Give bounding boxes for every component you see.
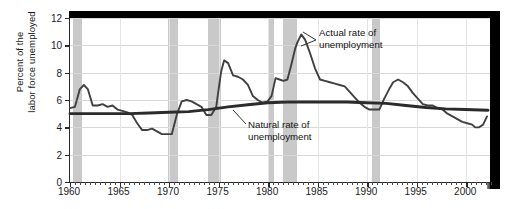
x-axis-minor-tick (451, 182, 452, 185)
x-axis-minor-tick (159, 182, 160, 185)
x-axis-minor-tick (129, 182, 130, 185)
frame-shadow-right (490, 11, 500, 189)
x-axis-minor-tick (273, 182, 274, 185)
x-axis-minor-tick (387, 182, 388, 185)
x-axis-minor-tick (407, 182, 408, 185)
x-axis-minor-tick (189, 182, 190, 185)
x-axis-minor-tick (209, 182, 210, 185)
x-axis-minor-tick (308, 182, 309, 185)
x-axis-minor-tick (313, 182, 314, 185)
x-axis-minor-tick (194, 182, 195, 185)
x-axis-minor-tick (357, 182, 358, 185)
x-axis-minor-tick (144, 182, 145, 185)
x-axis-minor-tick (392, 182, 393, 185)
natural-rate-annotation: Natural rate of unemployment (248, 119, 312, 142)
x-axis-minor-tick (80, 182, 81, 185)
x-axis-minor-tick (432, 182, 433, 185)
x-axis-minor-tick (323, 182, 324, 185)
y-axis-tick-label: 6 (56, 95, 62, 106)
x-axis-minor-tick (461, 182, 462, 185)
x-axis-minor-tick (352, 182, 353, 185)
x-axis-minor-tick (456, 182, 457, 185)
x-axis-minor-tick (214, 182, 215, 185)
x-axis-tick-label: 1990 (355, 186, 377, 197)
x-axis-minor-tick (164, 182, 165, 185)
actual-rate-annotation: Actual rate of unemployment (319, 27, 383, 50)
y-axis-tick-label: 4 (56, 122, 62, 133)
x-axis-minor-tick (258, 182, 259, 185)
x-axis-minor-tick (278, 182, 279, 185)
x-axis-minor-tick (253, 182, 254, 185)
y-axis-tick-label: 8 (56, 67, 62, 78)
x-axis-minor-tick (238, 182, 239, 185)
x-axis-minor-tick (446, 182, 447, 185)
x-axis-minor-tick (115, 182, 116, 185)
x-axis-minor-tick (402, 182, 403, 185)
x-axis-minor-tick (204, 182, 205, 185)
y-axis-tick-label: 12 (51, 13, 62, 24)
x-axis-minor-tick (228, 182, 229, 185)
x-axis-tick-label: 1970 (157, 186, 179, 197)
x-axis-minor-tick (293, 182, 294, 185)
x-axis-minor-tick (372, 182, 373, 185)
x-axis-minor-tick (134, 182, 135, 185)
x-axis-minor-tick (263, 182, 264, 185)
x-axis-tick-label: 2000 (454, 186, 476, 197)
x-axis-tick-label: 1985 (306, 186, 328, 197)
x-axis-minor-tick (248, 182, 249, 185)
x-axis-minor-tick (397, 182, 398, 185)
x-axis-tick-label: 1995 (405, 186, 427, 197)
x-axis-minor-tick (110, 182, 111, 185)
x-axis-minor-tick (224, 182, 225, 185)
x-axis-minor-tick (303, 182, 304, 185)
x-axis-minor-tick (288, 182, 289, 185)
x-axis-minor-tick (149, 182, 150, 185)
x-axis-minor-tick (95, 182, 96, 185)
x-axis-minor-tick (100, 182, 101, 185)
x-axis-minor-tick (342, 182, 343, 185)
x-axis-minor-tick (486, 182, 487, 185)
x-axis-minor-tick (427, 182, 428, 185)
x-axis-minor-tick (471, 182, 472, 185)
x-axis-minor-tick (491, 182, 492, 185)
x-axis-minor-tick (105, 182, 106, 185)
x-axis-tick-label: 1960 (58, 186, 80, 197)
x-axis-minor-tick (377, 182, 378, 185)
x-axis-minor-tick (233, 182, 234, 185)
x-axis-minor-tick (283, 182, 284, 185)
frame-shadow-top (69, 11, 500, 18)
x-axis-minor-tick (422, 182, 423, 185)
x-axis-minor-tick (154, 182, 155, 185)
x-axis-minor-tick (199, 182, 200, 185)
x-axis-minor-tick (179, 182, 180, 185)
x-axis-minor-tick (481, 182, 482, 185)
x-axis-tick-label: 1965 (107, 186, 129, 197)
x-axis-minor-tick (328, 182, 329, 185)
series-layer (70, 18, 490, 182)
x-axis-tick-label: 1980 (256, 186, 278, 197)
x-axis-minor-tick (139, 182, 140, 185)
unemployment-rate-chart: Percent of the labor force unemployed 02… (0, 0, 509, 209)
y-axis-title: Percent of the labor force unemployed (14, 0, 38, 150)
x-axis-minor-tick (184, 182, 185, 185)
y-axis-tick-label: 2 (56, 149, 62, 160)
x-axis-minor-tick (441, 182, 442, 185)
x-axis-minor-tick (85, 182, 86, 185)
x-axis-tick-label: 1975 (206, 186, 228, 197)
plot-area: 024681012 (69, 18, 490, 182)
x-axis-minor-tick (337, 182, 338, 185)
x-axis-minor-tick (347, 182, 348, 185)
x-axis-minor-tick (437, 182, 438, 185)
x-axis-minor-tick (174, 182, 175, 185)
x-axis-minor-tick (124, 182, 125, 185)
x-axis-minor-tick (333, 182, 334, 185)
x-axis-minor-tick (243, 182, 244, 185)
y-axis-tick-label: 10 (51, 40, 62, 51)
x-axis-minor-tick (362, 182, 363, 185)
x-axis-minor-tick (298, 182, 299, 185)
x-axis-minor-tick (412, 182, 413, 185)
x-axis-minor-tick (382, 182, 383, 185)
x-axis-minor-tick (75, 182, 76, 185)
x-axis-minor-tick (90, 182, 91, 185)
natural-rate-of-unemployment-line (70, 102, 488, 114)
